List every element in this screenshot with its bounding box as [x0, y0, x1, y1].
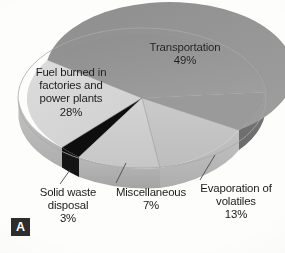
slice-label-transportation: Transportation 49% [130, 41, 240, 67]
slice-label-miscellaneous-text: Miscellaneous [116, 186, 186, 198]
slice-label-solid-waste-line2: disposal [48, 199, 89, 211]
slice-label-miscellaneous: Miscellaneous 7% [105, 186, 197, 212]
slice-label-solid-waste-line1: Solid waste [40, 186, 97, 198]
panel-label-a: A [11, 218, 30, 236]
slice-label-fuel: Fuel burned in factories and power plant… [10, 66, 132, 119]
slice-label-evaporation-line1: Evaporation of [200, 182, 271, 194]
slice-label-transportation-text: Transportation [150, 41, 221, 53]
slice-label-evaporation: Evaporation of volatiles 13% [188, 182, 284, 222]
slice-label-fuel-percent: 28% [10, 106, 132, 119]
pie-chart-figure: Transportation 49% Fuel burned in factor… [0, 0, 285, 253]
leader-solid-waste [60, 170, 70, 184]
slice-label-evaporation-percent: 13% [188, 208, 284, 221]
slice-label-miscellaneous-percent: 7% [105, 199, 197, 212]
slice-label-evaporation-line2: volatiles [216, 195, 256, 207]
slice-label-solid-waste-percent: 3% [16, 212, 120, 225]
slice-label-fuel-line1: Fuel burned in [36, 66, 107, 78]
slice-label-fuel-line2: factories and [39, 79, 102, 91]
slice-label-transportation-percent: 49% [130, 54, 240, 67]
slice-label-fuel-line3: power plants [40, 92, 103, 104]
